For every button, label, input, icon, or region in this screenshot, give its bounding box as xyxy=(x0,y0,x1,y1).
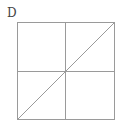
square-diagram xyxy=(0,0,121,125)
